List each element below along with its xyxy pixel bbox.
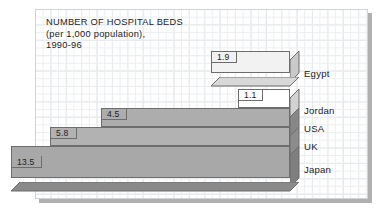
bar-japan-bottom-face [11, 178, 290, 187]
bar-egypt-value: 1.9 [211, 51, 237, 63]
category-label-egypt: Egypt [304, 68, 330, 79]
bar-japan-side-face [290, 146, 299, 178]
category-label-jordan: Jordan [304, 105, 335, 116]
bar-japan-value: 13.5 [11, 156, 42, 168]
category-label-uk: UK [304, 141, 318, 152]
chart-title-line3: 1990-96 [46, 40, 183, 52]
bar-usa-face [101, 108, 290, 127]
chart-figure: NUMBER OF HOSPITAL BEDS (per 1,000 popul… [0, 0, 378, 214]
bar-japan-face [11, 146, 290, 178]
category-label-japan: Japan [304, 164, 331, 175]
bar-uk-side-face [290, 127, 299, 146]
chart-title-line1: NUMBER OF HOSPITAL BEDS [46, 17, 183, 29]
bar-usa-side-face [290, 108, 299, 127]
bar-jordan-value: 1.1 [238, 89, 263, 101]
bar-uk-face [50, 127, 290, 146]
bar-uk: 5.8 [50, 127, 290, 146]
bar-egypt-bottom-face [211, 73, 290, 82]
category-label-usa: USA [304, 123, 324, 134]
bar-usa-value: 4.5 [101, 108, 127, 120]
bar-jordan: 1.1 [238, 89, 290, 108]
chart-title-line2: (per 1,000 population), [46, 29, 183, 41]
bar-uk-value: 5.8 [50, 127, 77, 139]
bar-egypt-side-face [290, 51, 299, 73]
bar-japan: 13.5 [11, 146, 290, 178]
bar-usa: 4.5 [101, 108, 290, 127]
bar-egypt: 1.9 [211, 51, 290, 73]
bar-jordan-side-face [290, 89, 299, 108]
chart-title-block: NUMBER OF HOSPITAL BEDS (per 1,000 popul… [46, 17, 183, 52]
